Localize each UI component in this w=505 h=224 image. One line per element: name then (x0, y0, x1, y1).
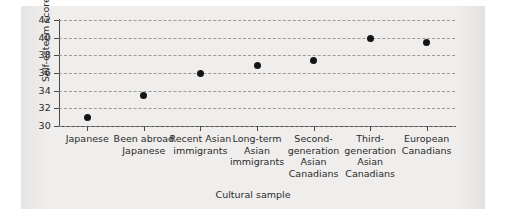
x-axis-tick-mark (200, 126, 201, 131)
x-axis-tick-mark (257, 126, 258, 131)
y-axis-tick-label: 34 (29, 85, 51, 96)
y-axis-tick-mark (54, 108, 59, 109)
y-axis-tick-label: 38 (29, 49, 51, 60)
x-axis-tick-label-line: Canadians (333, 168, 407, 180)
y-axis-tick-mark (54, 20, 59, 21)
x-axis-tick-label-line: Asian (333, 156, 407, 168)
data-point (423, 39, 430, 46)
y-axis-tick-label: 32 (29, 102, 51, 113)
y-axis-tick-mark (54, 126, 59, 127)
x-axis-title: Cultural sample (21, 189, 485, 200)
data-point (254, 62, 261, 69)
x-axis-tick-label-line: European (390, 133, 464, 145)
y-axis-tick-label: 36 (29, 67, 51, 78)
y-axis-tick-label: 42 (29, 14, 51, 25)
y-axis-tick-mark (54, 38, 59, 39)
plot-area (59, 20, 455, 126)
x-axis-tick-mark (427, 126, 428, 131)
data-point (367, 35, 374, 42)
x-axis-tick-label-line: Canadians (390, 145, 464, 157)
gridline (59, 91, 455, 92)
gridline (59, 73, 455, 74)
chart-figure: Self-esteem score 42403836343230 Japanes… (21, 6, 485, 209)
data-point (84, 114, 91, 121)
data-point (310, 57, 317, 64)
y-axis-tick-mark (54, 55, 59, 56)
x-axis-tick-label: EuropeanCanadians (390, 133, 464, 156)
y-axis-tick-label: 40 (29, 32, 51, 43)
gridline (59, 108, 455, 109)
y-axis-tick-mark (54, 91, 59, 92)
gridline (59, 38, 455, 39)
x-axis-tick-mark (370, 126, 371, 131)
x-axis-tick-mark (87, 126, 88, 131)
gridline (59, 20, 455, 21)
data-point (197, 70, 204, 77)
y-axis-tick-mark (54, 73, 59, 74)
x-axis-tick-mark (314, 126, 315, 131)
x-axis-tick-mark (144, 126, 145, 131)
data-point (140, 92, 147, 99)
gridline (59, 55, 455, 56)
y-axis-tick-label: 30 (29, 120, 51, 131)
